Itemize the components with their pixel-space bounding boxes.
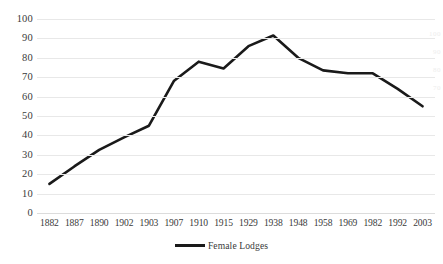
edge-artifact-text: 100 (429, 30, 441, 38)
y-axis-tick-label: 0 (0, 208, 33, 218)
y-axis-tick-label: 40 (0, 130, 33, 140)
gridline (37, 135, 435, 136)
x-axis-tick-label: 2003 (410, 217, 435, 233)
legend-item-female-lodges[interactable]: Female Lodges (175, 240, 268, 251)
gridline (37, 174, 435, 175)
edge-artifact-text: 90 (433, 48, 441, 56)
y-axis-tick-label: 90 (0, 33, 33, 43)
y-axis-tick-label: 60 (0, 92, 33, 102)
x-axis-tick-label: 1929 (236, 217, 261, 233)
edge-artifact-text: 80 (433, 66, 441, 74)
legend-label: Female Lodges (208, 240, 268, 251)
x-axis-tick-label: 1915 (211, 217, 236, 233)
gridline (37, 19, 435, 20)
y-axis-tick-label: 10 (0, 189, 33, 199)
chart-legend: Female Lodges (0, 240, 443, 251)
y-axis-tick-label: 20 (0, 169, 33, 179)
x-axis-tick-label: 1902 (112, 217, 137, 233)
x-axis-tick-label: 1910 (186, 217, 211, 233)
x-axis-tick-label: 1969 (336, 217, 361, 233)
x-axis-tick-label: 1992 (385, 217, 410, 233)
y-axis-tick-label: 50 (0, 111, 33, 121)
gridline (37, 155, 435, 156)
x-axis-tick-label: 1982 (360, 217, 385, 233)
x-axis-tick-label: 1948 (286, 217, 311, 233)
gridline (37, 38, 435, 39)
x-axis-tick-label: 1938 (261, 217, 286, 233)
y-axis-tick-label: 70 (0, 72, 33, 82)
x-axis-tick-label: 1882 (37, 217, 62, 233)
x-axis-tick-label: 1903 (137, 217, 162, 233)
gridline (37, 77, 435, 78)
y-axis-tick-label: 80 (0, 53, 33, 63)
gridline (37, 97, 435, 98)
plot-area (37, 19, 435, 213)
y-axis-tick-label: 100 (0, 14, 33, 24)
x-axis-tick-label: 1958 (311, 217, 336, 233)
x-axis-tick-label: 1907 (161, 217, 186, 233)
line-chart: 0102030405060708090100 18821887189019021… (0, 0, 443, 264)
y-axis: 0102030405060708090100 (0, 0, 33, 232)
gridline (37, 58, 435, 59)
y-axis-tick-label: 30 (0, 150, 33, 160)
gridline (37, 213, 435, 214)
x-axis: 1882188718901902190319071910191519291938… (37, 217, 435, 233)
x-axis-tick-label: 1890 (87, 217, 112, 233)
legend-line-swatch (175, 244, 205, 247)
edge-artifact-text: 70 (433, 84, 441, 92)
gridline (37, 194, 435, 195)
x-axis-tick-label: 1887 (62, 217, 87, 233)
gridline (37, 116, 435, 117)
